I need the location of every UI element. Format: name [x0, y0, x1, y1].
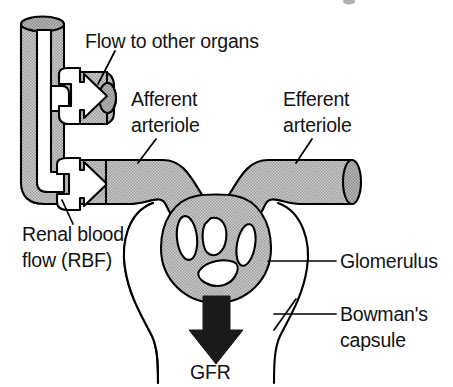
efferent-cut-end — [343, 160, 361, 204]
label-renal-blood-flow-line1: Renal blood — [22, 223, 124, 245]
label-afferent-line1: Afferent — [131, 88, 198, 110]
label-efferent-line1: Efferent — [283, 88, 350, 110]
label-flow-to-other-organs: Flow to other organs — [85, 30, 259, 52]
label-glomerulus: Glomerulus — [340, 250, 438, 272]
glomerular-loop-2 — [203, 218, 227, 255]
gfr-arrow — [189, 296, 243, 364]
diagram-canvas: Flow to other organs Afferent arteriole … — [0, 0, 453, 387]
cropped-text-artifact — [343, 0, 355, 5]
label-afferent-line2: arteriole — [131, 114, 200, 136]
label-renal-blood-flow-line2: flow (RBF) — [22, 249, 112, 271]
label-efferent-line2: arteriole — [283, 114, 352, 136]
label-gfr: GFR — [190, 361, 231, 383]
glomerulus — [161, 195, 271, 304]
label-bowmans-line2: capsule — [340, 329, 406, 351]
label-bowmans-line1: Bowman's — [340, 303, 428, 325]
renal-blood-flow-diagram: Flow to other organs Afferent arteriole … — [0, 0, 453, 387]
